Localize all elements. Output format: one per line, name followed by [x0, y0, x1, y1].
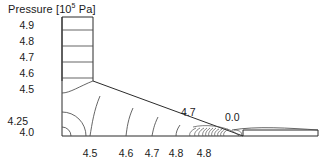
contour-arc-4-0	[62, 127, 71, 136]
y-label-4-8: 4.8	[0, 35, 34, 47]
nozzle-geometry-outline	[62, 17, 318, 136]
x-label-4-8a: 4.8	[161, 147, 191, 159]
corner-contour-arcs	[62, 112, 86, 136]
contour-line-x-4-7	[152, 117, 158, 136]
annotation-0-0: 0.0	[225, 111, 255, 123]
diverging-contour-lines	[90, 96, 180, 136]
contour-arc-4-25	[62, 112, 86, 136]
annotation-4-7: 4.7	[181, 106, 211, 118]
y-label-4-0: 4.0	[0, 126, 34, 138]
contour-line-x-4-8a	[176, 125, 180, 136]
chamber-contour-lines	[62, 30, 93, 93]
nozzle-contour-plot	[0, 0, 324, 168]
expansion-fan-contours	[190, 126, 242, 136]
contour-line-4-5	[62, 81, 93, 93]
x-label-4-5: 4.5	[75, 147, 105, 159]
contour-line-x-4-6	[126, 108, 133, 136]
x-label-4-8b: 4.8	[189, 147, 219, 159]
y-label-4-5: 4.5	[0, 83, 34, 95]
y-label-4-9: 4.9	[0, 19, 34, 31]
y-label-4-7: 4.7	[0, 51, 34, 63]
pressure-contour-figure: Pressure [105 Pa]	[0, 0, 324, 168]
contour-line-x-4-5	[90, 96, 100, 136]
y-label-4-6: 4.6	[0, 67, 34, 79]
